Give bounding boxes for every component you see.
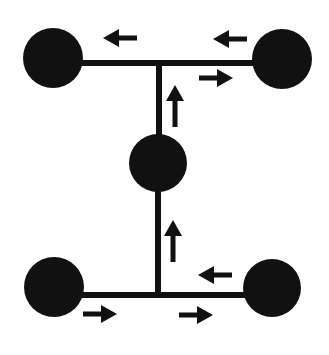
top-right-arrow-icon [213,30,247,48]
bottom-right-in-arrow-icon [198,266,232,284]
bottom-right-arrow-icon [179,306,213,324]
node-middle [129,134,187,192]
flow-diagram [0,0,329,355]
nodes [23,28,312,317]
node-bottom-left [24,257,84,317]
bottom-left-arrow-icon [83,305,117,323]
upper-stem-arrow-icon [166,85,184,127]
node-bottom-right [243,259,301,317]
top-right-out-arrow-icon [199,69,233,87]
lower-stem-arrow-icon [164,220,182,262]
node-top-right [252,29,312,89]
top-left-arrow-icon [103,29,137,47]
node-top-left [23,28,83,88]
